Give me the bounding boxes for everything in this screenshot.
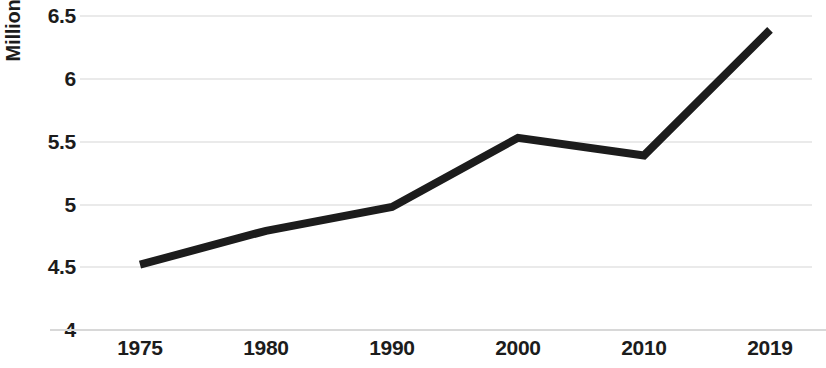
x-tick-label: 2000 <box>463 336 573 360</box>
data-series-line <box>140 30 770 265</box>
x-tick-label: 2019 <box>715 336 825 360</box>
x-tick-label: 1990 <box>337 336 447 360</box>
gridlines <box>50 16 826 330</box>
x-tick-label: 2010 <box>589 336 699 360</box>
x-tick-label: 1980 <box>211 336 321 360</box>
plot-area <box>0 0 826 368</box>
line-chart: Millions 6.5 6 5.5 5 4.5 4 1975 1980 199… <box>0 0 826 368</box>
x-axis-tick-labels: 1975 1980 1990 2000 2010 2019 <box>0 336 826 368</box>
x-tick-label: 1975 <box>85 336 195 360</box>
